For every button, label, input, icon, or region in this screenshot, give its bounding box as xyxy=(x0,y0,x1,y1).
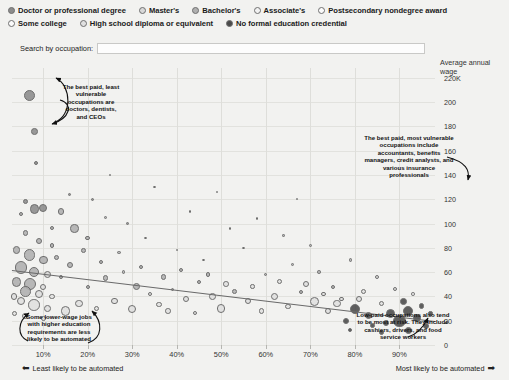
bubble-point[interactable] xyxy=(144,237,147,240)
bubble-point[interactable] xyxy=(161,274,166,279)
bubble-point[interactable] xyxy=(139,265,143,269)
bubble-point[interactable] xyxy=(189,210,191,212)
bubble-point[interactable] xyxy=(411,292,415,296)
bubble-point[interactable] xyxy=(331,285,335,289)
bubble-point[interactable] xyxy=(282,234,284,236)
bubble-point[interactable] xyxy=(19,212,23,216)
bubble-point[interactable] xyxy=(12,311,17,316)
bubble-point[interactable] xyxy=(202,259,205,262)
bubble-point[interactable] xyxy=(23,230,29,236)
bubble-point[interactable] xyxy=(94,306,99,311)
bubble-point[interactable] xyxy=(34,161,38,165)
bubble-point[interactable] xyxy=(271,293,279,301)
bubble-point[interactable] xyxy=(85,236,89,240)
bubble-point[interactable] xyxy=(264,273,267,276)
bubble-point[interactable] xyxy=(39,256,48,265)
bubble-point[interactable] xyxy=(75,300,83,308)
bubble-point[interactable] xyxy=(31,128,38,135)
bubble-point[interactable] xyxy=(223,281,229,287)
bubble-point[interactable] xyxy=(68,193,71,196)
bubble-point[interactable] xyxy=(229,227,231,229)
legend-item-no-formal-education-credential[interactable]: No formal education credential xyxy=(226,19,347,28)
bubble-point[interactable] xyxy=(13,246,21,254)
bubble-point[interactable] xyxy=(23,199,28,204)
bubble-point[interactable] xyxy=(179,268,183,272)
legend-item-high-school-diploma-or-equivalent[interactable]: High school diploma or equivalent xyxy=(80,19,213,28)
bubble-point[interactable] xyxy=(291,263,294,266)
bubble-point[interactable] xyxy=(67,262,73,268)
bubble-point[interactable] xyxy=(303,281,309,287)
bubble-point[interactable] xyxy=(277,279,282,284)
bubble-point[interactable] xyxy=(17,297,25,305)
bubble-point[interactable] xyxy=(165,308,171,314)
bubble-point[interactable] xyxy=(24,249,35,260)
bubble-point[interactable] xyxy=(24,90,35,101)
legend-item-some-college[interactable]: Some college xyxy=(8,19,67,28)
bubble-point[interactable] xyxy=(361,289,366,294)
legend-item-postsecondary-nondegree-award[interactable]: Postsecondary nondegree award xyxy=(318,6,447,15)
bubble-point[interactable] xyxy=(333,300,340,307)
bubble-point[interactable] xyxy=(30,204,39,213)
bubble-point[interactable] xyxy=(309,244,312,247)
bubble-point[interactable] xyxy=(379,301,385,307)
bubble-point[interactable] xyxy=(183,296,189,302)
bubble-point[interactable] xyxy=(317,270,321,274)
bubble-point[interactable] xyxy=(259,308,265,314)
bubble-point[interactable] xyxy=(128,305,136,313)
legend-row-2: Some collegeHigh school diploma or equiv… xyxy=(0,17,509,30)
bubble-point[interactable] xyxy=(117,251,121,255)
bubble-point[interactable] xyxy=(40,284,46,290)
bubble-point[interactable] xyxy=(104,216,107,219)
legend-item-master-s[interactable]: Master's xyxy=(139,6,179,15)
bubble-point[interactable] xyxy=(310,297,319,306)
bubble-point[interactable] xyxy=(44,305,51,312)
search-input[interactable] xyxy=(97,43,425,54)
bubble-point[interactable] xyxy=(35,290,43,298)
bubble-point[interactable] xyxy=(36,238,42,244)
bubble-point[interactable] xyxy=(54,255,59,260)
bubble-point[interactable] xyxy=(375,275,379,279)
bubble-point[interactable] xyxy=(256,217,258,219)
bubble-point[interactable] xyxy=(70,224,78,232)
bubble-point[interactable] xyxy=(50,243,54,247)
bubble-point[interactable] xyxy=(343,318,349,324)
bubble-point[interactable] xyxy=(206,272,211,277)
bubble-point[interactable] xyxy=(217,304,225,312)
legend-item-associate-s[interactable]: Associate's xyxy=(254,6,306,15)
bubble-point[interactable] xyxy=(349,258,352,261)
bubble-point[interactable] xyxy=(156,302,161,307)
bubble-point[interactable] xyxy=(20,286,31,297)
bubble-point[interactable] xyxy=(11,293,17,299)
legend-item-doctor-or-professional-degree[interactable]: Doctor or professional degree xyxy=(8,6,126,15)
legend-row-1: Doctor or professional degreeMaster'sBac… xyxy=(0,4,509,17)
bubble-point[interactable] xyxy=(50,226,54,230)
bubble-point[interactable] xyxy=(86,285,90,289)
bubble-point[interactable] xyxy=(91,198,94,201)
bubble-point[interactable] xyxy=(393,287,397,291)
bubble-point[interactable] xyxy=(111,298,117,304)
gridline-horizontal xyxy=(12,78,435,79)
bubble-point[interactable] xyxy=(242,247,245,250)
bubble-point[interactable] xyxy=(216,191,219,194)
gridline-horizontal xyxy=(12,126,435,127)
legend-item-bachelor-s[interactable]: Bachelor's xyxy=(192,6,240,15)
bubble-point[interactable] xyxy=(400,298,407,305)
bubble-point[interactable] xyxy=(81,248,86,253)
bubble-point[interactable] xyxy=(58,208,65,215)
bubble-point[interactable] xyxy=(419,303,425,309)
bubble-point[interactable] xyxy=(122,270,126,274)
bubble-point[interactable] xyxy=(12,277,22,287)
bubble-point[interactable] xyxy=(28,299,40,311)
bubble-point[interactable] xyxy=(232,289,237,294)
bubble-point[interactable] xyxy=(356,296,362,302)
bubble-point[interactable] xyxy=(99,260,103,264)
gridline-horizontal xyxy=(12,272,435,273)
bubble-point[interactable] xyxy=(250,284,254,288)
bubble-point[interactable] xyxy=(299,290,303,294)
bubble-point[interactable] xyxy=(197,280,201,284)
bubble-point[interactable] xyxy=(348,328,352,332)
bubble-point[interactable] xyxy=(49,294,55,300)
bubble-point[interactable] xyxy=(193,311,197,315)
bubble-point[interactable] xyxy=(39,204,47,212)
bubble-point[interactable] xyxy=(153,186,156,189)
